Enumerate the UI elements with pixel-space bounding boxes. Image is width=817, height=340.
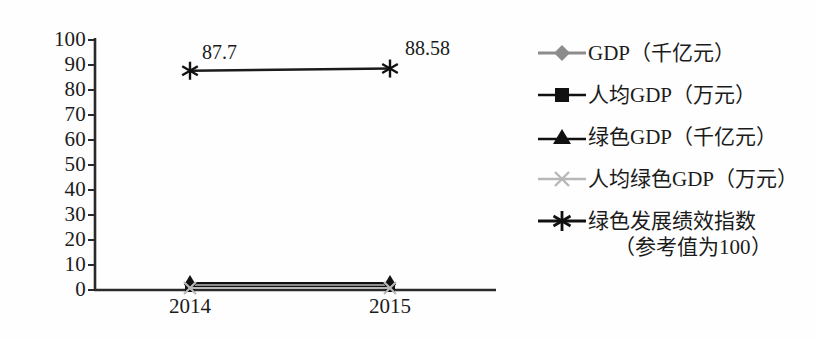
triangle-icon (536, 124, 588, 150)
square-icon (536, 82, 588, 108)
series-green-gdp (184, 275, 396, 285)
asterisk-icon (536, 208, 588, 234)
diamond-icon (536, 40, 588, 66)
y-tick-label-60: 60 (26, 129, 86, 150)
legend-item-green-gdp-per-capita[interactable]: 人均绿色GDP（万元） (536, 166, 808, 192)
cross-icon (536, 166, 588, 192)
y-tick-label-80: 80 (26, 79, 86, 100)
y-tick-label-50: 50 (26, 154, 86, 175)
legend-label-green-gdp-per-capita: 人均绿色GDP（万元） (588, 166, 798, 192)
legend-item-green-gdp[interactable]: 绿色GDP（千亿元） (536, 124, 808, 150)
y-tick-label-90: 90 (26, 54, 86, 75)
data-label-2014-green-performance-index: 87.7 (202, 42, 237, 62)
legend-item-gdp[interactable]: GDP（千亿元） (536, 40, 808, 66)
legend-item-gdp-per-capita[interactable]: 人均GDP（万元） (536, 82, 808, 108)
legend-item-green-performance-index[interactable]: 绿色发展绩效指数 （参考值为100） (536, 208, 808, 261)
x-tick-label-2015: 2015 (345, 296, 435, 317)
legend-label-gdp: GDP（千亿元） (588, 40, 735, 66)
legend-label-line1: 绿色发展绩效指数 (588, 209, 756, 233)
legend-label-green-performance-index: 绿色发展绩效指数 （参考值为100） (588, 208, 772, 261)
y-tick-label-40: 40 (26, 179, 86, 200)
y-tick-label-20: 20 (26, 229, 86, 250)
y-tick-label-70: 70 (26, 104, 86, 125)
chart-figure: 100 90 80 70 60 50 40 30 20 10 0 2014 20… (0, 0, 817, 340)
y-tick-label-30: 30 (26, 204, 86, 225)
legend-label-green-gdp: 绿色GDP（千亿元） (588, 124, 777, 150)
legend-label-line2: （参考值为100） (588, 234, 772, 261)
x-tick-label-2014: 2014 (145, 296, 235, 317)
y-tick-label-10: 10 (26, 254, 86, 275)
y-tick-label-100: 100 (26, 29, 86, 50)
data-label-2015-green-performance-index: 88.58 (405, 38, 450, 58)
legend-label-gdp-per-capita: 人均GDP（万元） (588, 82, 756, 108)
y-tick-label-0: 0 (26, 279, 86, 300)
chart-legend: GDP（千亿元） 人均GDP（万元） 绿色GDP（千亿元） (536, 40, 808, 277)
